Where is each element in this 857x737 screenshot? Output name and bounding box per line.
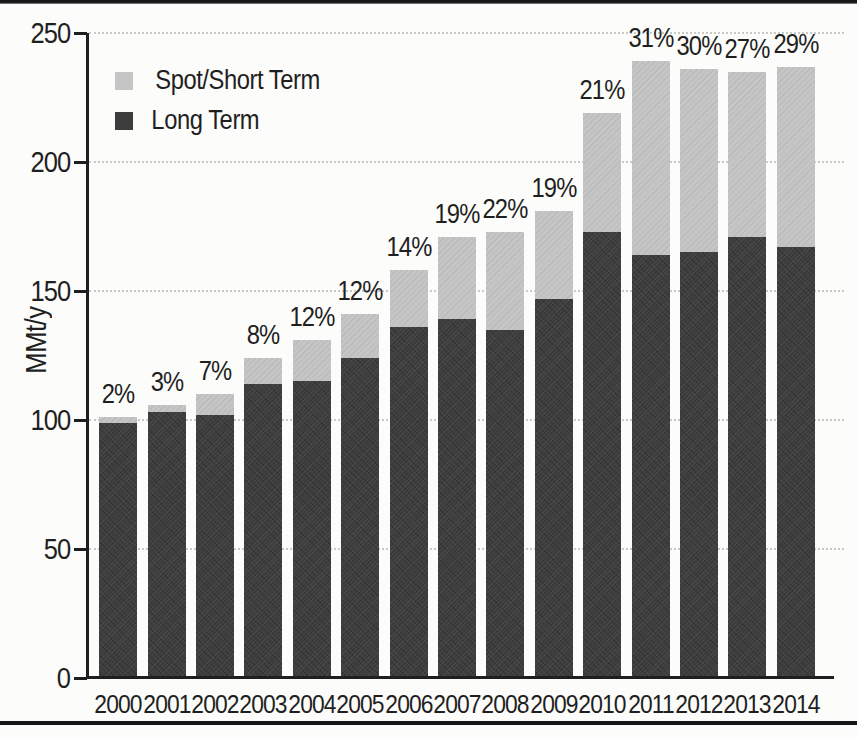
bar-2005-long-term — [341, 358, 379, 678]
bar-2008-long-term — [486, 330, 524, 678]
scanned-figure: MMt/y 050100150200250 2%20003%20017%2002… — [0, 0, 857, 737]
bar-2014-spot-short-term — [777, 67, 815, 248]
bar-2002-long-term — [196, 415, 234, 678]
x-tick-label-2000: 2000 — [91, 691, 145, 717]
y-axis-line — [86, 33, 89, 679]
bar-2007-spot-short-term — [438, 237, 476, 320]
bar-2003-long-term — [244, 384, 282, 678]
bar-2010-spot-short-term — [583, 113, 621, 232]
bar-label-2007: 19% — [432, 201, 483, 228]
bar-2008 — [486, 232, 524, 678]
bar-slot-2008: 22%2008 — [481, 33, 529, 678]
y-axis-title-text: MMt/y — [20, 306, 53, 373]
bar-2003-spot-short-term — [244, 358, 282, 384]
x-tick-label-2004: 2004 — [285, 691, 339, 717]
bar-2001-spot-short-term — [148, 405, 186, 413]
x-tick-label-2006: 2006 — [382, 691, 436, 717]
legend-label: Long Term — [144, 107, 267, 134]
bar-2011-long-term — [632, 255, 670, 678]
bar-slot-2011: 31%2011 — [626, 33, 674, 678]
y-tick-200 — [74, 161, 87, 164]
bar-2011 — [632, 61, 670, 678]
bar-2004 — [293, 340, 331, 678]
y-tick-label-150: 150 — [12, 276, 70, 306]
bar-slot-2013: 27%2013 — [723, 33, 771, 678]
bar-slot-2006: 14%2006 — [384, 33, 432, 678]
x-tick-label-2012: 2012 — [672, 691, 726, 717]
x-tick-label-2003: 2003 — [237, 691, 291, 717]
bar-2006 — [390, 270, 428, 678]
bar-2012-long-term — [680, 252, 718, 678]
legend-item-long-term: Long Term — [115, 107, 331, 134]
y-tick-label-50: 50 — [12, 534, 70, 564]
bar-2000 — [99, 417, 137, 678]
bar-label-2004: 12% — [286, 304, 337, 331]
legend-label: Spot/Short Term — [144, 67, 331, 94]
bar-slot-2009: 19%2009 — [530, 33, 578, 678]
bar-2013-long-term — [728, 237, 766, 678]
long-term-swatch-icon — [115, 112, 133, 130]
bar-2002 — [196, 394, 234, 678]
bar-slot-2005: 12%2005 — [336, 33, 384, 678]
bar-2001 — [148, 405, 186, 678]
bar-label-2000: 2% — [100, 381, 137, 408]
bar-2005-spot-short-term — [341, 314, 379, 358]
x-tick-label-2002: 2002 — [188, 691, 242, 717]
bar-2007 — [438, 237, 476, 678]
bar-2006-spot-short-term — [390, 270, 428, 327]
x-tick-label-2001: 2001 — [140, 691, 194, 717]
spot-short-term-swatch-icon — [115, 72, 133, 90]
bar-2012 — [680, 69, 718, 678]
bar-2002-spot-short-term — [196, 394, 234, 415]
x-tick-label-2005: 2005 — [333, 691, 387, 717]
legend-item-spot-short-term: Spot/Short Term — [115, 67, 331, 94]
bar-2011-spot-short-term — [632, 61, 670, 255]
y-tick-100 — [74, 419, 87, 422]
bar-label-2012: 30% — [674, 33, 725, 60]
y-axis-title: MMt/y — [20, 302, 53, 378]
legend: Spot/Short Term Long Term — [115, 67, 331, 134]
bar-label-2002: 7% — [197, 358, 234, 385]
bar-2001-long-term — [148, 412, 186, 678]
bar-2003 — [244, 358, 282, 678]
x-tick-label-2014: 2014 — [769, 691, 823, 717]
y-tick-250 — [74, 32, 87, 35]
bar-label-2006: 14% — [383, 234, 434, 261]
bar-slot-2014: 29%2014 — [772, 33, 820, 678]
bar-2009 — [535, 211, 573, 678]
bar-2013-spot-short-term — [728, 72, 766, 237]
bar-label-2013: 27% — [722, 36, 773, 63]
x-tick-label-2009: 2009 — [527, 691, 581, 717]
y-tick-50 — [74, 548, 87, 551]
bar-2010-long-term — [583, 232, 621, 678]
bar-2004-long-term — [293, 381, 331, 678]
bar-slot-2010: 21%2010 — [578, 33, 626, 678]
bar-label-2014: 29% — [770, 31, 821, 58]
bar-2009-spot-short-term — [535, 211, 573, 299]
page-bottom-rule — [0, 721, 857, 725]
x-tick-label-2007: 2007 — [430, 691, 484, 717]
bar-2008-spot-short-term — [486, 232, 524, 330]
bar-label-2011: 31% — [625, 25, 676, 52]
bar-2014 — [777, 67, 815, 678]
bar-label-2008: 22% — [480, 196, 531, 223]
bar-slot-2007: 19%2007 — [433, 33, 481, 678]
y-tick-0 — [74, 677, 87, 680]
bar-2013 — [728, 72, 766, 678]
y-tick-label-0: 0 — [12, 663, 70, 693]
x-tick-label-2011: 2011 — [625, 691, 677, 717]
bar-label-2005: 12% — [335, 278, 386, 305]
bar-2012-spot-short-term — [680, 69, 718, 252]
bar-2004-spot-short-term — [293, 340, 331, 381]
bar-label-2001: 3% — [148, 369, 185, 396]
bar-slot-2012: 30%2012 — [675, 33, 723, 678]
y-tick-label-200: 200 — [12, 147, 70, 177]
bar-2009-long-term — [535, 299, 573, 678]
y-tick-label-100: 100 — [12, 405, 70, 435]
x-tick-label-2008: 2008 — [479, 691, 533, 717]
y-tick-label-250: 250 — [12, 18, 70, 48]
x-tick-label-2013: 2013 — [721, 691, 775, 717]
bar-2005 — [341, 314, 379, 678]
bar-label-2010: 21% — [577, 77, 628, 104]
bar-2006-long-term — [390, 327, 428, 678]
